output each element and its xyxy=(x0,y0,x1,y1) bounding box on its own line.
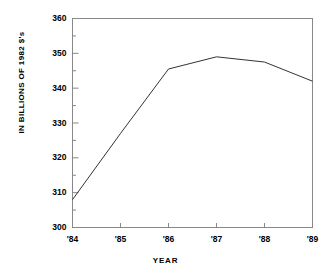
y-axis-tick-label: 310 xyxy=(37,187,67,197)
plot-frame xyxy=(73,19,313,228)
y-axis-tick-label: 300 xyxy=(37,222,67,232)
y-axis-tick-label: 330 xyxy=(37,118,67,128)
y-axis-tick-label: 320 xyxy=(37,152,67,162)
x-axis-tick-label: '88 xyxy=(250,234,280,244)
x-axis-tick-label: '89 xyxy=(298,234,328,244)
x-axis-tick-label: '87 xyxy=(202,234,232,244)
x-axis-tick-label: '85 xyxy=(106,234,136,244)
y-axis-tick-label: 350 xyxy=(37,48,67,58)
x-axis-tick-label: '84 xyxy=(58,234,88,244)
y-axis-tick-label: 340 xyxy=(37,83,67,93)
y-axis-tick-label: 360 xyxy=(37,13,67,23)
line-chart: IN BILLIONS OF 1982 $'s YEAR 30031032033… xyxy=(0,0,331,279)
x-axis-tick-label: '86 xyxy=(154,234,184,244)
